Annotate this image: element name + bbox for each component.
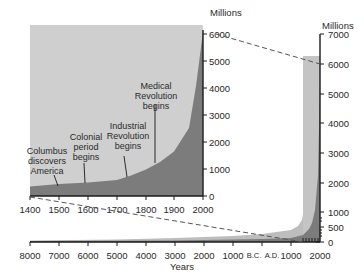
svg-text:begins: begins xyxy=(115,141,142,151)
main-y-tick-label: 500 xyxy=(328,222,344,233)
main-y-tick-label: 0 xyxy=(328,237,333,248)
main-x-tick-label: 4000 xyxy=(135,250,156,261)
main-x-tick-label: A.D. xyxy=(265,251,280,260)
inset-y-unit: Millions xyxy=(210,7,242,18)
svg-text:Medical: Medical xyxy=(140,81,171,91)
svg-text:America: America xyxy=(30,166,63,176)
main-x-tick-label: 1000 xyxy=(280,250,301,261)
main-x-tick-label: 8000 xyxy=(19,250,40,261)
svg-text:period: period xyxy=(73,142,98,152)
main-x-tick-label: 2000 xyxy=(193,250,214,261)
main-y-tick-label: 2000 xyxy=(328,178,349,189)
connector-top xyxy=(216,34,320,64)
main-y-tick-label: 1000 xyxy=(328,207,349,218)
inset-y-tick-label: 4000 xyxy=(209,83,230,94)
population-chart: Millions 0 1000 2000 3000 4000 5000 6000… xyxy=(0,0,364,277)
main-x-tick-label: 5000 xyxy=(106,250,127,261)
inset-x-tick-label: 1700 xyxy=(106,204,127,215)
svg-text:Colonial: Colonial xyxy=(70,132,103,142)
main-x-tick-label: 2000 xyxy=(309,250,330,261)
main-x-tick-label: 7000 xyxy=(48,250,69,261)
inset-y-tick-label: 3000 xyxy=(209,110,230,121)
main-y-tick-label: 6000 xyxy=(328,59,349,70)
inset-y-tick-label: 0 xyxy=(209,191,214,202)
inset-x-tick-label: 1800 xyxy=(135,204,156,215)
svg-text:Revolution: Revolution xyxy=(107,131,150,141)
svg-text:begins: begins xyxy=(143,101,170,111)
svg-text:begins: begins xyxy=(73,152,100,162)
inset-y-tick-label: 6000 xyxy=(209,29,230,40)
main-x-tick-label: 1000 xyxy=(222,250,243,261)
main-x-axis-label: Years xyxy=(170,261,194,272)
inset-x-tick-label: 1400 xyxy=(19,204,40,215)
inset-y-tick-label: 5000 xyxy=(209,56,230,67)
svg-text:discovers: discovers xyxy=(28,156,67,166)
main-x-tick-label: 6000 xyxy=(77,250,98,261)
svg-text:Revolution: Revolution xyxy=(135,91,178,101)
main-population-area-light xyxy=(30,214,303,242)
main-y-tick-label: 7000 xyxy=(328,29,349,40)
inset-x-tick-label: 2000 xyxy=(192,204,213,215)
inset-chart: Millions 0 1000 2000 3000 4000 5000 6000… xyxy=(19,7,241,215)
main-y-tick-label: 3000 xyxy=(328,148,349,159)
inset-x-tick-label: 1500 xyxy=(48,204,69,215)
inset-y-tick-label: 2000 xyxy=(209,137,230,148)
inset-y-tick-label: 1000 xyxy=(209,164,230,175)
svg-text:Industrial: Industrial xyxy=(110,121,147,131)
inset-x-tick-label: 1900 xyxy=(163,204,184,215)
main-x-tick-label: 3000 xyxy=(164,250,185,261)
main-y-tick-label: 4000 xyxy=(328,118,349,129)
svg-text:Columbus: Columbus xyxy=(27,146,68,156)
main-y-tick-label: 5000 xyxy=(328,89,349,100)
main-x-tick-label: B.C. xyxy=(247,251,262,260)
